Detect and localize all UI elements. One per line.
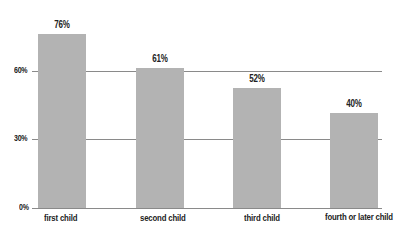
bar-fourth-child (330, 113, 378, 208)
bar-third-child (233, 88, 281, 208)
bar-second-child (136, 68, 184, 208)
xlabel-first-child: first child (44, 212, 77, 223)
xlabel-second-child: second child (140, 212, 186, 223)
ytick-30: 30% (14, 133, 27, 143)
xlabel-third-child: third child (244, 212, 280, 223)
ytick-0: 0% (19, 202, 29, 212)
bar-first-child (38, 34, 86, 208)
bar-chart: 60% 30% 0% 76% 61% 52% 40% first child s… (0, 0, 404, 235)
baseline (32, 208, 382, 209)
value-label-first-child: 76% (43, 19, 81, 30)
value-label-third-child: 52% (238, 73, 276, 84)
value-label-second-child: 61% (141, 53, 179, 64)
ytick-60: 60% (14, 65, 27, 75)
value-label-fourth-child: 40% (335, 98, 373, 109)
xlabel-fourth-child: fourth or later child (325, 211, 393, 222)
